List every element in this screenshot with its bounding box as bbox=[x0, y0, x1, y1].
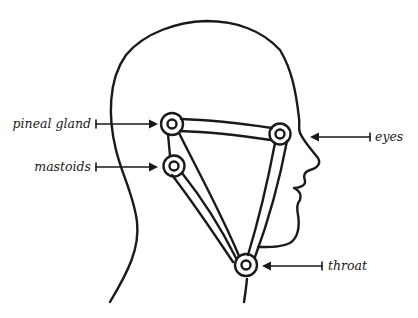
arrow-mastoids bbox=[96, 163, 158, 172]
arrow-throat bbox=[262, 262, 322, 271]
connector-mastoids-throat bbox=[172, 173, 236, 262]
node-mastoids bbox=[164, 156, 185, 177]
arrow-eyes bbox=[310, 133, 370, 142]
label-throat: throat bbox=[328, 258, 368, 273]
arrow-pineal bbox=[96, 120, 158, 129]
connector-pineal-throat bbox=[168, 133, 239, 256]
connector-pineal-eyes bbox=[180, 119, 272, 140]
label-pineal-gland: pineal gland bbox=[13, 116, 91, 131]
node-eyes bbox=[270, 124, 291, 145]
head-diagram: pineal gland mastoids eyes throat bbox=[0, 0, 418, 318]
head-outline bbox=[110, 21, 319, 302]
neck-line bbox=[244, 279, 247, 302]
node-throat bbox=[235, 254, 257, 276]
node-pineal bbox=[161, 113, 183, 135]
connector-eyes-throat bbox=[248, 141, 287, 257]
label-eyes: eyes bbox=[375, 129, 403, 144]
label-mastoids: mastoids bbox=[34, 159, 91, 174]
diagram-canvas: pineal gland mastoids eyes throat bbox=[0, 0, 418, 318]
